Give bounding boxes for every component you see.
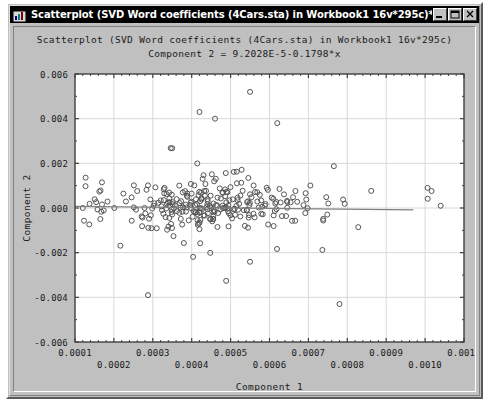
x-tick-label: 0.0008 — [330, 360, 364, 370]
x-tick-label: 0.0010 — [408, 360, 442, 370]
x-tick-label: 0.0004 — [175, 360, 209, 370]
x-tick-label: 0.0003 — [136, 348, 170, 358]
y-tick-label: -0.002 — [34, 248, 68, 258]
y-tick-label: -0.006 — [34, 338, 68, 348]
y-tick-label: 0.002 — [40, 159, 68, 169]
x-tick-label: 0.0001 — [58, 348, 92, 358]
statistica-graph-icon — [13, 8, 27, 21]
y-tick-label: 0.004 — [40, 114, 68, 124]
chart-client-area: Scatterplot (SVD Word coefficients (4Car… — [13, 26, 476, 392]
x-tick-label: 0.0011 — [447, 348, 476, 358]
close-button[interactable] — [463, 8, 477, 21]
x-axis-title: Component 1 — [236, 381, 303, 392]
y-axis-title: Component 2 — [21, 174, 32, 241]
y-tick-label: 0.006 — [40, 70, 68, 80]
title-bar[interactable]: Scatterplot (SVD Word coefficients (4Car… — [10, 6, 479, 23]
y-tick-label: -0.004 — [34, 293, 68, 303]
x-tick-label: 0.0002 — [97, 360, 131, 370]
scatterplot-window: Scatterplot (SVD Word coefficients (4Car… — [6, 2, 483, 399]
scatterplot-figure[interactable]: 0.00010.00020.00030.00040.00050.00060.00… — [14, 27, 476, 392]
x-tick-label: 0.0006 — [253, 360, 287, 370]
x-tick-label: 0.0007 — [292, 348, 326, 358]
window-title: Scatterplot (SVD Word coefficients (4Car… — [31, 8, 432, 21]
minimize-button[interactable] — [433, 8, 447, 21]
x-tick-label: 0.0009 — [369, 348, 403, 358]
x-tick-label: 0.0005 — [214, 348, 248, 358]
y-tick-label: 0.000 — [40, 204, 68, 214]
maximize-button[interactable] — [448, 8, 462, 21]
